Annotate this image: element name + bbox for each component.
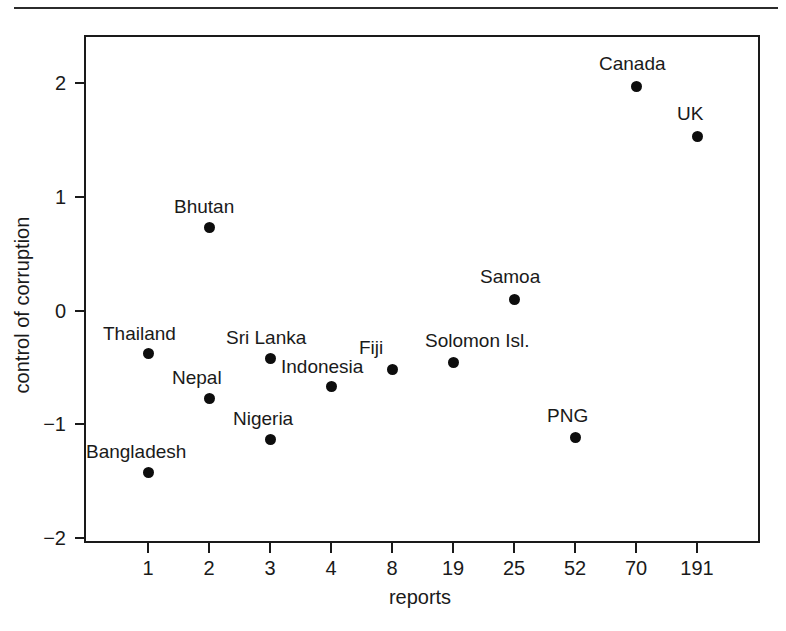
data-point-marker	[143, 467, 154, 478]
y-axis-tick-mark	[75, 196, 84, 198]
y-axis-tick-mark	[75, 423, 84, 425]
y-axis-tick-label: −2	[26, 528, 66, 548]
data-point-marker	[631, 81, 642, 92]
x-axis-tick-mark	[452, 543, 454, 553]
data-point-label: Canada	[599, 54, 666, 74]
x-axis-tick-label: 2	[179, 558, 239, 578]
data-point-marker	[692, 131, 703, 142]
x-axis-tick-mark	[635, 543, 637, 553]
data-point-label: Solomon Isl.	[425, 331, 530, 351]
x-axis-tick-mark	[330, 543, 332, 553]
x-axis-tick-mark	[269, 543, 271, 553]
data-point-marker	[265, 353, 276, 364]
x-axis-title: reports	[320, 586, 520, 608]
y-axis-tick-mark	[75, 82, 84, 84]
plot-area-frame	[84, 35, 760, 543]
data-point-marker	[387, 364, 398, 375]
x-axis-tick-label: 19	[423, 558, 483, 578]
x-axis-tick-mark	[391, 543, 393, 553]
x-axis-tick-label: 8	[362, 558, 422, 578]
data-point-label: Indonesia	[281, 357, 363, 377]
x-axis-tick-label: 191	[667, 558, 727, 578]
data-point-marker	[448, 357, 459, 368]
data-point-label: PNG	[547, 406, 588, 426]
y-axis-tick-mark	[75, 310, 84, 312]
data-point-marker	[204, 222, 215, 233]
x-axis-tick-mark	[696, 543, 698, 553]
header-rule	[14, 7, 778, 9]
data-point-marker	[265, 434, 276, 445]
x-axis-tick-label: 1	[118, 558, 178, 578]
data-point-label: UK	[677, 104, 703, 124]
data-point-marker	[204, 393, 215, 404]
data-point-marker	[509, 294, 520, 305]
x-axis-tick-mark	[513, 543, 515, 553]
x-axis-tick-mark	[574, 543, 576, 553]
data-point-label: Fiji	[359, 338, 383, 358]
x-axis-tick-mark	[208, 543, 210, 553]
x-axis-tick-mark	[147, 543, 149, 553]
data-point-label: Sri Lanka	[226, 328, 306, 348]
x-axis-tick-label: 70	[606, 558, 666, 578]
x-axis-tick-label: 25	[484, 558, 544, 578]
x-axis-tick-label: 3	[240, 558, 300, 578]
data-point-label: Bangladesh	[86, 442, 186, 462]
x-axis-tick-label: 4	[301, 558, 361, 578]
data-point-marker	[143, 348, 154, 359]
x-axis-tick-label: 52	[545, 558, 605, 578]
data-point-label: Thailand	[103, 324, 176, 344]
data-point-label: Nepal	[172, 368, 222, 388]
scatter-figure: 210−1−2 1234819255270191 BangladeshThail…	[0, 0, 786, 631]
data-point-label: Samoa	[480, 267, 540, 287]
y-axis-tick-label: 2	[26, 73, 66, 93]
y-axis-tick-mark	[75, 537, 84, 539]
data-point-marker	[326, 381, 337, 392]
data-point-marker	[570, 432, 581, 443]
data-point-label: Nigeria	[233, 409, 293, 429]
data-point-label: Bhutan	[174, 197, 234, 217]
y-axis-title: control of corruption	[11, 155, 33, 455]
